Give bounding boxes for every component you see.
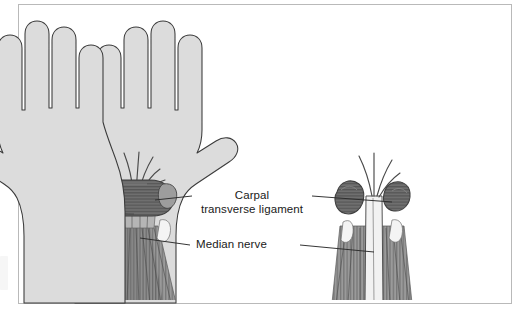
left-thenar-mass (158, 184, 176, 209)
right-carpal-bone-radial (389, 220, 403, 243)
figure-stage: Carpal transverse ligament Median nerve (0, 0, 520, 312)
label-ligament-line2: transverse ligament (200, 203, 304, 217)
label-carpal-transverse-ligament: Carpal transverse ligament (200, 189, 304, 216)
label-ligament-line1: Carpal (200, 189, 304, 203)
label-median-nerve: Median nerve (196, 238, 267, 252)
anatomy-illustration (0, 0, 520, 312)
right-carpal-bone-ulnar (341, 221, 353, 243)
right-ligament-half-radial (383, 182, 410, 211)
